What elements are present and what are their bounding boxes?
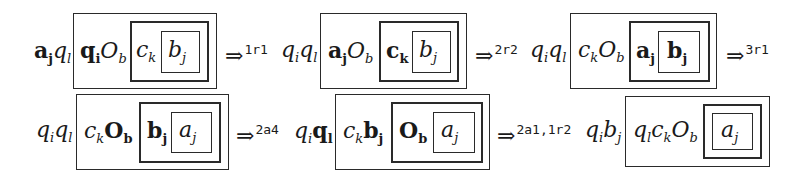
middle-objects: aj — [636, 39, 655, 62]
inner-objects: bj — [667, 39, 687, 62]
outer-objects: ckOb — [84, 119, 132, 142]
object-subscript: k — [96, 131, 104, 146]
object-base: q — [633, 117, 647, 142]
object-base: b — [363, 117, 378, 143]
prefix-objects: qiql — [530, 39, 567, 61]
object-base: q — [54, 117, 68, 142]
middle-objects: Ob — [399, 119, 427, 142]
object-base: O — [399, 117, 418, 143]
object-subscript: j — [617, 130, 621, 145]
object-base: q — [585, 117, 599, 142]
rule-label: 1r1 — [244, 42, 267, 57]
object-subscript: l — [313, 50, 317, 65]
object-subscript: j — [182, 50, 186, 65]
object-base: a — [179, 117, 192, 142]
inner-objects: bj — [168, 39, 186, 61]
transition-arrow: ⇒3r1 — [726, 39, 769, 67]
inner-objects: bj — [419, 39, 437, 61]
object-subscript: j — [682, 51, 687, 66]
rule-label: 2a1,1r2 — [516, 122, 571, 137]
object-base: q — [294, 118, 308, 143]
object-base: q — [530, 37, 544, 62]
inner-objects: aj — [441, 119, 458, 141]
double-arrow-icon: ⇒ — [236, 123, 254, 148]
prefix-objects: ajql — [34, 39, 71, 62]
object-subscript: j — [192, 130, 196, 145]
object-subscript: j — [379, 131, 384, 146]
object-base: a — [441, 117, 454, 142]
double-arrow-icon: ⇒ — [225, 43, 243, 68]
object-base: O — [598, 37, 616, 62]
object-subscript: b — [365, 51, 373, 66]
prefix-objects: qiql — [36, 119, 73, 141]
object-subscript: b — [123, 131, 132, 146]
object-base: c — [343, 118, 355, 143]
object-base: O — [100, 38, 118, 63]
prefix-objects: qibj — [585, 119, 621, 141]
object-subscript: b — [690, 130, 698, 145]
object-subscript: k — [148, 50, 156, 65]
object-subscript: j — [162, 131, 167, 146]
prefix-objects: qiql — [281, 39, 318, 61]
outer-objects: qlckOb — [633, 119, 698, 141]
transition-arrow: ⇒1r1 — [225, 39, 268, 67]
object-base: b — [168, 37, 182, 62]
outer-objects: qiOb — [80, 39, 127, 62]
object-subscript: j — [650, 51, 655, 66]
transition-arrow: ⇒2a4 — [236, 119, 279, 147]
object-subscript: l — [68, 130, 72, 145]
object-subscript: l — [328, 131, 333, 146]
object-base: b — [419, 37, 433, 62]
object-subscript: j — [433, 50, 437, 65]
middle-objects: ck — [136, 39, 156, 61]
object-base: q — [36, 117, 50, 142]
object-base: c — [386, 37, 399, 63]
outer-objects: ajOb — [328, 39, 373, 62]
object-base: q — [281, 37, 295, 62]
object-base: q — [80, 37, 95, 63]
object-base: c — [578, 37, 590, 62]
object-base: q — [299, 37, 313, 62]
object-subscript: k — [355, 131, 363, 146]
object-base: a — [721, 117, 734, 142]
rule-label: 2a4 — [255, 122, 278, 137]
object-base: q — [53, 38, 67, 63]
double-arrow-icon: ⇒ — [497, 123, 515, 148]
double-arrow-icon: ⇒ — [475, 43, 493, 68]
object-base: c — [84, 118, 96, 143]
object-subscript: j — [454, 130, 458, 145]
outer-objects: ckbj — [343, 119, 383, 142]
object-base: c — [136, 37, 148, 62]
rule-label: 2r2 — [494, 42, 517, 57]
prefix-objects: qiql — [294, 119, 333, 142]
outer-objects: ckOb — [578, 39, 625, 61]
object-subscript: b — [118, 51, 126, 66]
object-base: c — [651, 117, 663, 142]
object-base: O — [671, 117, 689, 142]
middle-objects: bj — [147, 119, 167, 142]
object-subscript: b — [616, 50, 624, 65]
object-base: b — [603, 117, 617, 142]
object-base: O — [104, 117, 123, 143]
object-subscript: k — [590, 50, 598, 65]
object-subscript: l — [67, 51, 71, 66]
object-base: O — [347, 38, 365, 63]
object-base: a — [34, 37, 48, 63]
transition-arrow: ⇒2a1,1r2 — [497, 119, 571, 147]
middle-objects: ck — [386, 39, 408, 62]
inner-objects: aj — [721, 119, 738, 141]
object-base: a — [636, 37, 650, 63]
object-base: b — [147, 117, 162, 143]
object-base: q — [548, 37, 562, 62]
object-base: b — [667, 37, 682, 63]
transition-arrow: ⇒2r2 — [475, 39, 518, 67]
object-subscript: k — [399, 51, 408, 66]
object-subscript: l — [562, 50, 566, 65]
rule-label: 3r1 — [745, 42, 768, 57]
double-arrow-icon: ⇒ — [726, 43, 744, 68]
object-base: q — [312, 117, 327, 143]
object-subscript: j — [734, 130, 738, 145]
object-subscript: b — [418, 131, 427, 146]
object-base: a — [328, 37, 342, 63]
object-subscript: k — [664, 130, 672, 145]
